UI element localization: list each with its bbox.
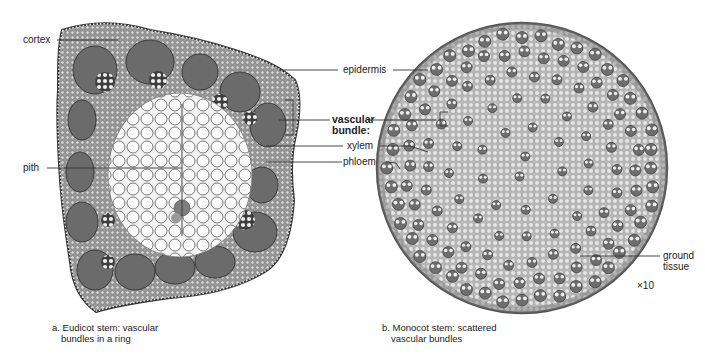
stem-illustrations bbox=[0, 0, 705, 362]
caption-eudicot-line1: a. Eudicot stem: vascular bbox=[52, 322, 158, 333]
label-pith: pith bbox=[23, 162, 39, 173]
label-xylem: xylem bbox=[347, 140, 373, 151]
label-cortex: cortex bbox=[23, 34, 50, 45]
label-magnification: ×10 bbox=[637, 280, 654, 291]
eudicot-stem-cross-section bbox=[57, 23, 299, 312]
label-ground-tissue-line1: ground bbox=[663, 250, 694, 261]
caption-monocot-line1: b. Monocot stem: scattered bbox=[382, 322, 497, 333]
caption-eudicot-line2: bundles in a ring bbox=[52, 333, 158, 344]
label-vascular-bundle-line2: bundle: bbox=[332, 125, 375, 136]
label-vascular-bundle: vascular bundle: bbox=[332, 114, 375, 136]
caption-monocot-line2: vascular bundles bbox=[382, 333, 497, 344]
label-phloem: phloem bbox=[343, 156, 376, 167]
label-epidermis: epidermis bbox=[343, 64, 386, 75]
label-ground-tissue-line2: tissue bbox=[663, 261, 694, 272]
caption-monocot: b. Monocot stem: scattered vascular bund… bbox=[382, 322, 497, 344]
caption-eudicot: a. Eudicot stem: vascular bundles in a r… bbox=[52, 322, 158, 344]
label-ground-tissue: ground tissue bbox=[663, 250, 694, 272]
monocot-stem-cross-section bbox=[377, 23, 667, 313]
